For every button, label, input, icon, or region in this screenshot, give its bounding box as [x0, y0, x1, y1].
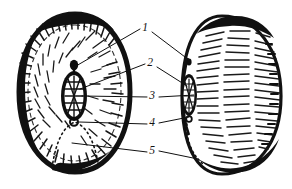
figure-root: 1 2 3 4 5 — [0, 0, 292, 189]
label-1: 1 — [142, 21, 148, 33]
label-2: 2 — [147, 56, 153, 68]
label-5: 5 — [149, 144, 155, 156]
label-3: 3 — [148, 89, 155, 101]
botanical-diagram: 1 2 3 4 5 — [0, 0, 292, 189]
label-4: 4 — [149, 116, 155, 128]
